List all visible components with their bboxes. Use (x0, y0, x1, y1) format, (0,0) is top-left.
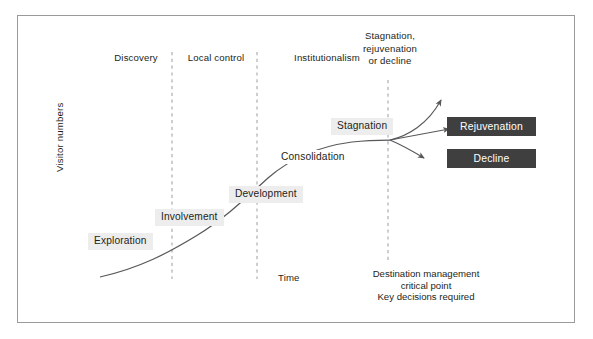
phase-header-stagnation-group: Stagnation, rejuvenation or decline (347, 30, 433, 68)
outcome-box-rejuvenation: Rejuvenation (447, 117, 536, 136)
phase-header-local-control: Local control (180, 52, 252, 64)
outcome-box-decline: Decline (447, 149, 536, 168)
stage-label-stagnation: Stagnation (331, 118, 393, 135)
annotation-line-3: Key decisions required (346, 291, 506, 303)
phase-header-discovery: Discovery (105, 52, 167, 64)
stage-label-involvement: Involvement (155, 209, 224, 226)
annotation-line-1: Destination management (346, 268, 506, 280)
phase-header-stagnation-line-2: rejuvenation (347, 43, 433, 56)
stage-label-exploration: Exploration (88, 233, 153, 250)
critical-point-annotation: Destination management critical point Ke… (346, 268, 506, 303)
stage-label-consolidation: Consolidation (279, 150, 347, 164)
y-axis-label: Visitor numbers (54, 62, 65, 172)
tourism-life-cycle-diagram: Visitor numbers Time Discovery Local con… (0, 0, 593, 339)
annotation-line-2: critical point (346, 280, 506, 292)
stage-label-development: Development (229, 186, 303, 203)
phase-header-stagnation-line-1: Stagnation, (347, 30, 433, 43)
phase-header-stagnation-line-3: or decline (347, 55, 433, 68)
x-axis-label: Time (278, 272, 300, 284)
